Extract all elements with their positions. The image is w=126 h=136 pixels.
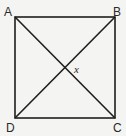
vertex-label-a: A: [4, 5, 12, 19]
vertex-label-c: C: [113, 121, 122, 135]
vertex-label-b: B: [113, 5, 121, 19]
vertex-label-d: D: [6, 121, 15, 135]
square-diagram: A B C D x: [0, 0, 126, 136]
angle-label-x: x: [73, 63, 79, 75]
